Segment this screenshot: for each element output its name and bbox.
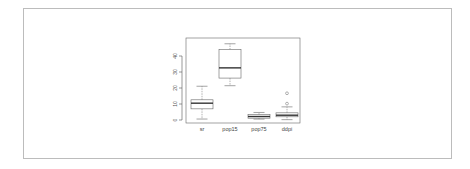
iqr-box bbox=[191, 100, 213, 109]
boxplot-chart: 010203040 srpop15pop75ddpi bbox=[0, 0, 470, 169]
outlier-point bbox=[286, 102, 289, 105]
box-pop15 bbox=[219, 44, 241, 86]
y-tick-label: 10 bbox=[172, 101, 178, 107]
x-axis-labels: srpop15pop75ddpi bbox=[200, 126, 293, 132]
x-tick-label-ddpi: ddpi bbox=[282, 126, 292, 132]
iqr-box bbox=[219, 49, 241, 78]
x-tick-label-pop75: pop75 bbox=[251, 126, 266, 132]
y-tick-label: 0 bbox=[172, 118, 178, 121]
x-tick-label-pop15: pop15 bbox=[222, 126, 237, 132]
y-axis: 010203040 bbox=[172, 53, 182, 121]
box-sr bbox=[191, 86, 213, 119]
box-pop75 bbox=[248, 112, 270, 119]
boxes bbox=[191, 44, 298, 120]
box-ddpi bbox=[276, 92, 298, 120]
outlier-point bbox=[286, 92, 289, 95]
y-tick-label: 30 bbox=[172, 69, 178, 75]
y-tick-label: 20 bbox=[172, 85, 178, 91]
x-tick-label-sr: sr bbox=[200, 126, 205, 132]
y-tick-label: 40 bbox=[172, 53, 178, 59]
plot-area-border bbox=[186, 38, 300, 123]
